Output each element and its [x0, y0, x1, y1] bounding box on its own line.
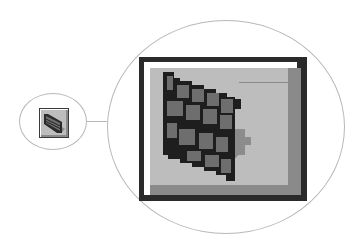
small-brick-wall-button[interactable] [39, 108, 69, 138]
brick-wall-icon-magnified [139, 57, 307, 201]
brick-wall-icon [39, 108, 69, 138]
callout-connector-line [87, 121, 107, 122]
magnified-brick-wall-button [139, 57, 307, 201]
